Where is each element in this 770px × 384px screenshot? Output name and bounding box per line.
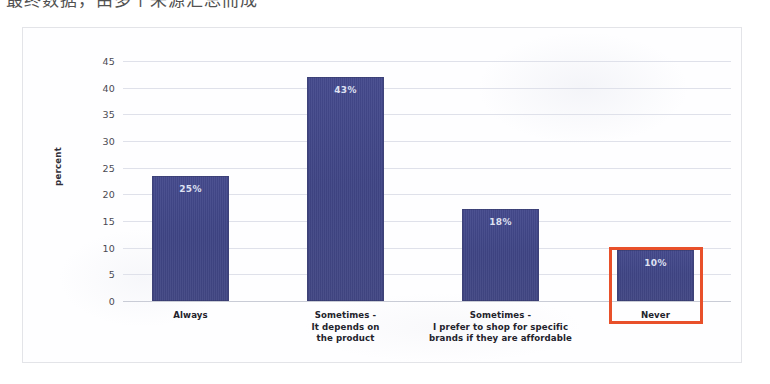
category-label-line: brands if they are affordable <box>386 333 616 345</box>
y-axis-tick-label: 25 <box>81 162 115 173</box>
gridline <box>123 61 731 62</box>
cut-off-header-text: 最终数据，由多个来源汇总而成 <box>0 0 770 16</box>
y-axis-title: percent <box>53 147 63 186</box>
y-axis-tick-label: 45 <box>81 56 115 67</box>
bar: 25% <box>152 176 229 301</box>
bar: 43% <box>307 77 384 301</box>
gridline <box>123 88 731 89</box>
category-label-line: Sometimes - <box>386 310 616 322</box>
y-axis-tick-label: 35 <box>81 109 115 120</box>
y-axis-tick-label: 0 <box>81 296 115 307</box>
highlight-annotation-box <box>609 247 703 324</box>
category-label-line: Always <box>131 310 251 322</box>
cut-off-header-label: 最终数据，由多个来源汇总而成 <box>6 0 258 11</box>
chart-card: percent 051015202530354045 25%43%18%10% … <box>22 27 742 363</box>
category-label-line: I prefer to shop for specific <box>386 322 616 334</box>
gridline <box>123 114 731 115</box>
y-axis-tick-label: 30 <box>81 136 115 147</box>
plot-area: 051015202530354045 25%43%18%10% AlwaysSo… <box>123 61 743 301</box>
x-axis-category-label: Always <box>131 310 251 322</box>
bar-value-label: 43% <box>307 85 384 95</box>
bar-value-label: 25% <box>152 184 229 194</box>
y-axis-tick-label: 40 <box>81 82 115 93</box>
y-axis-tick-label: 15 <box>81 216 115 227</box>
gridline <box>123 141 731 142</box>
bar-value-label: 18% <box>462 217 539 227</box>
y-axis-tick-label: 5 <box>81 269 115 280</box>
bar: 18% <box>462 209 539 301</box>
y-axis-tick-label: 10 <box>81 242 115 253</box>
x-axis-category-label: Sometimes -I prefer to shop for specific… <box>386 310 616 345</box>
y-axis-tick-label: 20 <box>81 189 115 200</box>
gridline <box>123 168 731 169</box>
